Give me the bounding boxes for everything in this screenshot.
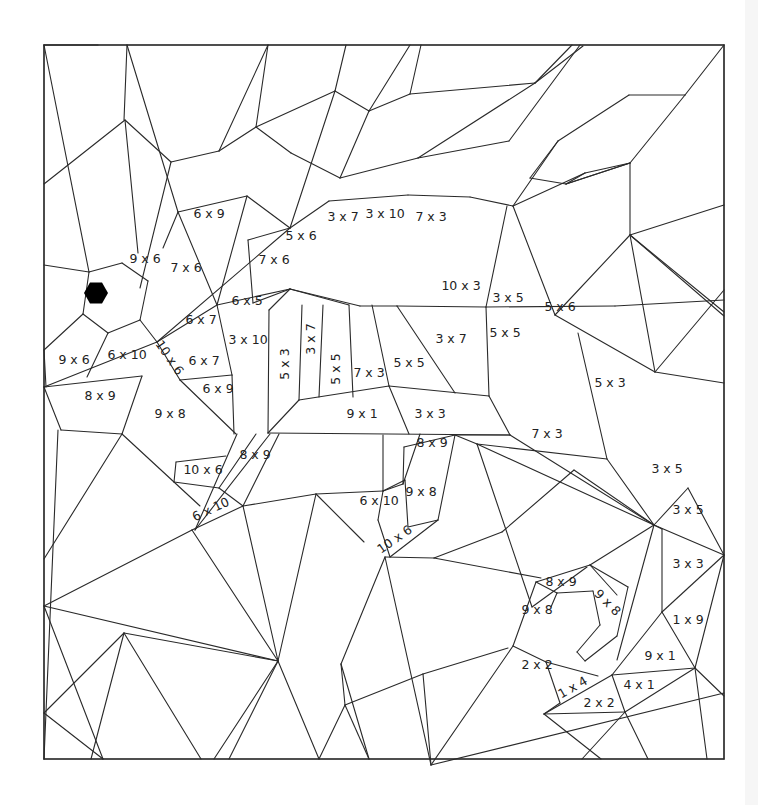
region-edge (256, 91, 335, 127)
region-edge (180, 375, 232, 380)
region-edge (389, 386, 409, 434)
region-edge (607, 459, 654, 525)
region-edge (369, 45, 410, 111)
region-edge (268, 310, 269, 433)
region-edge (688, 488, 724, 555)
region-label: 3 x 3 (414, 406, 445, 421)
region-label: 3 x 5 (492, 290, 523, 305)
region-label: 2 x 2 (583, 695, 614, 710)
region-edge (578, 333, 607, 459)
region-label: 8 x 9 (545, 574, 576, 589)
region-label: 9 x 6 (129, 251, 160, 266)
region-outlines (44, 45, 724, 765)
region-edge (434, 558, 541, 578)
region-label: 6 x 10 (107, 347, 146, 362)
region-edge (122, 376, 142, 434)
region-label: 9 x 8 (405, 484, 436, 499)
region-edge (124, 633, 201, 759)
region-label: 9 x 8 (521, 602, 552, 617)
region-edge (654, 525, 724, 555)
region-edge (455, 435, 477, 444)
region-edge (546, 662, 598, 676)
region-edge (630, 95, 685, 163)
region-edge (229, 661, 278, 759)
region-edge (124, 45, 127, 120)
region-edge (574, 470, 654, 525)
region-edge (510, 435, 654, 525)
region-edge (685, 45, 724, 95)
region-label: 5 x 6 (544, 299, 575, 314)
region-edge (530, 178, 566, 184)
region-label: 3 x 7 (327, 209, 358, 224)
region-edge (530, 141, 558, 178)
region-edge (157, 228, 290, 342)
region-edge (345, 705, 369, 759)
region-edge (489, 396, 510, 435)
region-edge (434, 532, 502, 558)
region-edge (44, 633, 124, 713)
region-edge (340, 158, 418, 178)
region-edge (423, 674, 431, 765)
region-label: 7 x 6 (170, 260, 201, 275)
region-edge (269, 289, 290, 310)
region-label: 9 x 1 (644, 648, 675, 663)
region-edge (615, 300, 724, 306)
region-edge (192, 530, 278, 661)
region-edge (403, 447, 404, 484)
region-label: 9 x 8 (154, 406, 185, 421)
region-edge (345, 674, 423, 705)
region-label: 6 x 9 (202, 381, 233, 396)
region-edge (431, 646, 513, 765)
region-label: 10 x 6 (152, 337, 187, 378)
region-label: 6 x 7 (188, 353, 219, 368)
region-edge (577, 625, 600, 652)
region-label: 9 x 6 (58, 352, 89, 367)
region-edge (612, 668, 695, 675)
region-label: 8 x 9 (416, 435, 447, 450)
region-edge (125, 120, 171, 162)
region-label: 7 x 6 (258, 252, 289, 267)
region-edge (124, 633, 278, 661)
region-edge (341, 664, 369, 759)
region-edge (44, 606, 278, 661)
region-label: 9 x 1 (346, 406, 377, 421)
region-label: 3 x 5 (651, 461, 682, 476)
region-edge (544, 712, 625, 714)
region-edge (385, 557, 434, 558)
region-edge (410, 45, 421, 94)
region-edge (349, 305, 353, 397)
region-edge (582, 712, 625, 759)
region-label: 5 x 5 (489, 325, 520, 340)
region-label: 5 x 5 (328, 353, 343, 384)
region-edge (291, 153, 340, 178)
region-label: 9 x 8 (591, 586, 624, 619)
region-edge (214, 661, 278, 759)
region-edge (61, 430, 122, 434)
region-edge (140, 281, 148, 320)
region-edge (163, 212, 178, 248)
region-edge (278, 661, 319, 759)
region-label: 10 x 6 (183, 462, 222, 477)
region-edge (486, 307, 489, 396)
region-edge (247, 196, 290, 228)
region-edge (290, 289, 349, 305)
region-label: 6 x 7 (185, 312, 216, 327)
region-label: 3 x 5 (672, 502, 703, 517)
region-label: 6 x 9 (193, 206, 224, 221)
region-edge (44, 265, 89, 272)
region-edge (174, 482, 219, 488)
region-edge (290, 201, 329, 228)
region-edge (171, 151, 219, 162)
region-edge (140, 320, 157, 342)
region-edge (140, 162, 171, 288)
region-label: 3 x 7 (435, 331, 466, 346)
region-edge (397, 306, 486, 307)
region-label: 3 x 10 (365, 206, 404, 221)
region-label: 2 x 2 (521, 657, 552, 672)
region-edge (612, 612, 662, 675)
region-label: 3 x 10 (228, 332, 267, 347)
region-edge (44, 45, 89, 272)
region-edge (557, 591, 593, 593)
region-label: 4 x 1 (623, 677, 654, 692)
region-edge (91, 633, 124, 759)
